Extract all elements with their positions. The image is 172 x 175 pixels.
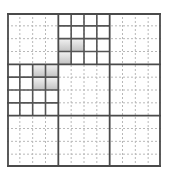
shaded-cell: [33, 77, 46, 90]
shaded-cell: [71, 39, 84, 52]
shaded-cell: [33, 64, 46, 77]
shaded-cell: [58, 39, 71, 52]
shaded-cell: [46, 64, 59, 77]
shaded-cell: [46, 77, 59, 90]
grid-canvas: [7, 13, 161, 167]
shaded-cell: [58, 52, 71, 65]
block-grid-diagram: [7, 13, 161, 167]
